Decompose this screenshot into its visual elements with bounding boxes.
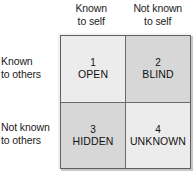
- quadrant-unknown-label: UNKNOWN: [130, 136, 186, 148]
- quadrant-hidden: 3 HIDDEN: [61, 103, 125, 169]
- quadrant-blind: 2 BLIND: [126, 36, 190, 102]
- quadrant-hidden-number: 3: [90, 124, 96, 135]
- quadrant-blind-number: 2: [155, 57, 161, 68]
- quadrant-grid-plate: 1 OPEN 2 BLIND 3 HIDDEN 4 UNKNOWN: [58, 33, 191, 169]
- column-header-known-to-self: Known to self: [58, 0, 125, 33]
- column-header-not-known-to-self: Not known to self: [125, 0, 192, 33]
- row-header-known-to-others: Known to others: [1, 55, 57, 80]
- column-header-known-to-self-line2: to self: [78, 15, 105, 28]
- quadrant-blind-label: BLIND: [142, 69, 173, 81]
- row-header-not-known-to-others: Not known to others: [1, 121, 57, 146]
- quadrant-unknown-number: 4: [155, 124, 161, 135]
- row-header-known-to-others-line1: Known: [1, 55, 33, 67]
- column-header-not-known-to-self-line1: Not known: [133, 2, 182, 15]
- column-header-not-known-to-self-line2: to self: [144, 15, 171, 28]
- column-header-known-to-self-line1: Known: [75, 2, 107, 15]
- row-header-column: Known to others Not known to others: [0, 33, 57, 169]
- johari-window-diagram: Known to self Not known to self Known to…: [0, 0, 195, 173]
- quadrant-open-label: OPEN: [78, 69, 108, 81]
- row-header-not-known-to-others-line1: Not known: [1, 121, 50, 133]
- quadrant-open-number: 1: [90, 57, 96, 68]
- quadrant-grid: 1 OPEN 2 BLIND 3 HIDDEN 4 UNKNOWN: [60, 35, 191, 169]
- quadrant-hidden-label: HIDDEN: [73, 136, 114, 148]
- quadrant-unknown: 4 UNKNOWN: [126, 103, 190, 169]
- row-header-known-to-others-line2: to others: [1, 68, 41, 80]
- row-header-not-known-to-others-line2: to others: [1, 134, 41, 146]
- column-header-row: Known to self Not known to self: [58, 0, 191, 33]
- quadrant-open: 1 OPEN: [61, 36, 125, 102]
